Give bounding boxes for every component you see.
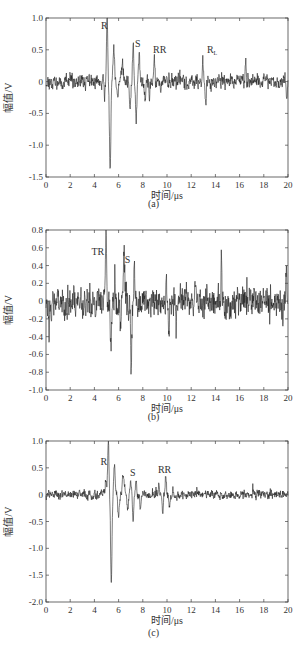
x-tick-label: 12 — [187, 393, 196, 403]
x-tick-label: 14 — [211, 180, 221, 190]
peak-annotation: RR — [158, 464, 172, 475]
figure-svg: 024681012141618201.00.50-0.5-1.0-1.5时间/μ… — [0, 0, 307, 654]
caption-a: (a) — [0, 198, 307, 209]
y-tick-label: 0.4 — [32, 261, 44, 271]
y-tick-label: -1.0 — [29, 543, 44, 553]
y-tick-label: 1.0 — [32, 13, 44, 23]
x-tick-label: 10 — [163, 605, 173, 615]
y-tick-label: -0.5 — [29, 108, 44, 118]
peak-annotation: RR — [153, 44, 167, 55]
x-tick-label: 4 — [92, 393, 97, 403]
y-tick-label: -0.4 — [29, 332, 44, 342]
x-tick-label: 2 — [68, 393, 73, 403]
x-tick-label: 0 — [44, 605, 49, 615]
x-tick-label: 4 — [92, 605, 97, 615]
x-tick-label: 20 — [284, 393, 294, 403]
y-tick-label: -1.5 — [29, 172, 44, 182]
y-tick-label: 1.0 — [32, 436, 44, 446]
x-tick-label: 10 — [163, 393, 173, 403]
x-tick-label: 10 — [163, 180, 173, 190]
x-tick-label: 2 — [68, 605, 73, 615]
y-tick-label: 0.5 — [32, 45, 44, 55]
y-tick-label: -1.5 — [29, 570, 44, 580]
signal-line — [46, 441, 288, 583]
x-tick-label: 6 — [116, 180, 121, 190]
x-tick-label: 16 — [235, 180, 245, 190]
chart-a: 024681012141618201.00.50-0.5-1.0-1.5时间/μ… — [2, 13, 293, 201]
x-tick-label: 2 — [68, 180, 73, 190]
y-tick-label: 0.8 — [32, 225, 44, 235]
x-tick-label: 8 — [141, 180, 146, 190]
peak-annotation: R — [100, 456, 107, 467]
y-tick-label: 0 — [39, 296, 44, 306]
y-tick-label: 0 — [39, 77, 44, 87]
x-tick-label: 4 — [92, 180, 97, 190]
signal-line — [46, 230, 288, 374]
x-tick-label: 18 — [259, 393, 269, 403]
figure-container: 024681012141618201.00.50-0.5-1.0-1.5时间/μ… — [0, 0, 307, 654]
x-tick-label: 20 — [284, 605, 294, 615]
axes-frame — [46, 18, 288, 177]
x-tick-label: 6 — [116, 393, 121, 403]
x-tick-label: 12 — [187, 180, 196, 190]
y-tick-label: -1.0 — [29, 140, 44, 150]
x-tick-label: 16 — [235, 393, 245, 403]
y-tick-label: 0.5 — [32, 463, 44, 473]
x-tick-label: 6 — [116, 605, 121, 615]
y-axis-label: 幅值/V — [2, 506, 14, 537]
x-tick-label: 16 — [235, 605, 245, 615]
peak-annotation: R — [101, 20, 108, 31]
caption-b: (b) — [0, 411, 307, 422]
y-tick-label: -0.6 — [29, 349, 44, 359]
caption-c: (c) — [0, 627, 307, 638]
x-tick-label: 14 — [211, 393, 221, 403]
y-tick-label: -1.0 — [29, 385, 44, 395]
chart-b: 024681012141618200.80.60.40.20-0.2-0.4-0… — [2, 225, 293, 414]
x-axis-label: 时间/μs — [151, 614, 183, 626]
y-tick-label: -2.0 — [29, 597, 44, 607]
chart-c: 024681012141618201.00.50-0.5-1.0-1.5-2.0… — [2, 436, 293, 626]
y-tick-label: 0.6 — [32, 243, 44, 253]
y-axis-label: 幅值/V — [2, 294, 14, 325]
peak-annotation: S — [125, 254, 131, 265]
x-tick-label: 8 — [141, 605, 146, 615]
x-tick-label: 14 — [211, 605, 221, 615]
y-tick-label: -0.8 — [29, 367, 44, 377]
y-tick-label: 0 — [39, 490, 44, 500]
signal-line — [46, 18, 288, 168]
y-tick-label: 0.2 — [32, 278, 43, 288]
y-tick-label: -0.2 — [29, 314, 43, 324]
x-tick-label: 12 — [187, 605, 196, 615]
x-tick-label: 18 — [259, 180, 269, 190]
x-tick-label: 0 — [44, 393, 49, 403]
peak-annotation: TR — [91, 246, 104, 257]
x-tick-label: 18 — [259, 605, 269, 615]
peak-annotation: RL — [207, 44, 218, 56]
y-axis-label: 幅值/V — [2, 82, 14, 113]
x-tick-label: 8 — [141, 393, 146, 403]
x-tick-label: 0 — [44, 180, 49, 190]
y-tick-label: -0.5 — [29, 517, 44, 527]
peak-annotation: S — [135, 38, 141, 49]
peak-annotation: S — [130, 467, 136, 478]
x-tick-label: 20 — [284, 180, 294, 190]
